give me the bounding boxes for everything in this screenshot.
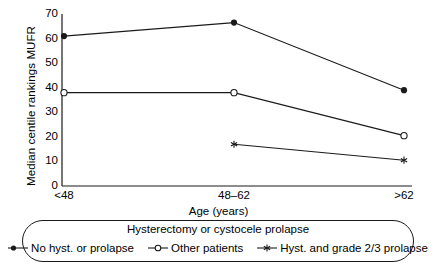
- legend-item-other-patients[interactable]: Other patients: [148, 242, 243, 254]
- series-0: [61, 20, 407, 94]
- x-tick-label: >62: [394, 190, 414, 202]
- plot-area: [0, 0, 437, 200]
- data-point-open-circle: [401, 133, 407, 139]
- filled-circle-line-marker-icon: [8, 243, 28, 253]
- data-point-filled-circle: [61, 33, 67, 39]
- x-axis-label: Age (years): [0, 205, 437, 217]
- x-tick-label: <48: [54, 190, 74, 202]
- data-point-filled-circle: [401, 87, 407, 93]
- data-point-filled-circle: [231, 20, 237, 26]
- open-circle-line-marker-icon: [148, 243, 168, 253]
- legend: Hysterectomy or cystocele prolapse No hy…: [22, 220, 414, 262]
- series-layer: [61, 20, 407, 164]
- series-1: [61, 90, 407, 139]
- legend-items: No hyst. or prolapse Other patients: [23, 242, 413, 254]
- legend-item-hyst-and-grade-2-3-prolapse[interactable]: Hyst. and grade 2/3 prolapse: [257, 242, 428, 254]
- series-line: [64, 23, 404, 91]
- series-line: [234, 144, 404, 160]
- legend-item-label: Other patients: [171, 242, 243, 254]
- series-2: [231, 141, 407, 164]
- legend-item-label: Hyst. and grade 2/3 prolapse: [280, 242, 428, 254]
- legend-title: Hysterectomy or cystocele prolapse: [23, 223, 413, 235]
- legend-item-no-hyst-or-prolapse[interactable]: No hyst. or prolapse: [8, 242, 134, 254]
- line-chart: Median centile rankings MUFR 70 60 50 40…: [0, 0, 437, 266]
- legend-item-label: No hyst. or prolapse: [31, 242, 134, 254]
- star-line-marker-icon: [257, 243, 277, 253]
- data-point-open-circle: [61, 90, 67, 96]
- x-tick-label: 48–62: [218, 190, 250, 202]
- series-line: [64, 93, 404, 136]
- data-point-open-circle: [231, 90, 237, 96]
